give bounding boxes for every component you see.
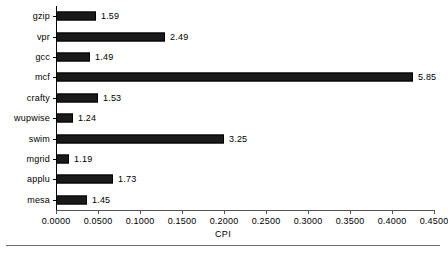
category-label: gcc <box>35 52 50 62</box>
bar <box>56 12 96 21</box>
category-label: crafty <box>27 93 50 103</box>
category-label: swim <box>29 134 50 144</box>
category-label: mcf <box>35 72 50 82</box>
category-label: gzip <box>33 11 50 21</box>
x-axis-tick-label: 0.1000 <box>126 216 155 226</box>
category-label: mesa <box>27 195 50 205</box>
bar <box>56 73 413 82</box>
x-axis-tick-label: 0.0500 <box>84 216 113 226</box>
bar <box>56 175 113 184</box>
category-label: applu <box>27 174 50 184</box>
bar <box>56 52 90 61</box>
bar-row: gzip1.59 <box>56 6 434 26</box>
bar-value-label: 1.73 <box>118 174 136 184</box>
x-axis-tick-label: 0.0000 <box>42 216 71 226</box>
category-label: mgrid <box>26 154 50 164</box>
x-axis-tick-label: 0.3500 <box>336 216 365 226</box>
x-axis-tick-label: 0.1500 <box>168 216 197 226</box>
bar <box>56 195 87 204</box>
bar-row: mesa1.45 <box>56 190 434 210</box>
bar-row: vpr2.49 <box>56 26 434 46</box>
x-axis-tick <box>56 210 57 214</box>
bar <box>56 134 224 143</box>
bar <box>56 32 165 41</box>
x-axis-tick-label: 0.2500 <box>252 216 281 226</box>
bar-value-label: 1.24 <box>78 113 96 123</box>
x-axis-tick <box>266 210 267 214</box>
x-axis-line <box>56 210 435 211</box>
x-axis-tick <box>140 210 141 214</box>
x-axis-tick <box>308 210 309 214</box>
bar-value-label: 2.49 <box>170 32 188 42</box>
x-axis-tick-label: 0.4000 <box>378 216 407 226</box>
bar-value-label: 1.53 <box>103 93 121 103</box>
x-axis-tick-label: 0.3000 <box>294 216 323 226</box>
category-label: vpr <box>37 32 50 42</box>
x-axis-tick <box>434 210 435 214</box>
category-label: wupwise <box>14 113 50 123</box>
bar-value-label: 5.85 <box>418 72 436 82</box>
bar-row: crafty1.53 <box>56 88 434 108</box>
x-axis-tick <box>182 210 183 214</box>
bar-row: applu1.73 <box>56 169 434 189</box>
bar-row: mgrid1.19 <box>56 149 434 169</box>
bar-value-label: 3.25 <box>229 134 247 144</box>
x-axis-tick <box>350 210 351 214</box>
bar-value-label: 1.49 <box>95 52 113 62</box>
bar-row: swim3.25 <box>56 128 434 148</box>
bar-value-label: 1.19 <box>74 154 92 164</box>
x-axis-tick <box>224 210 225 214</box>
x-axis-tick <box>98 210 99 214</box>
x-axis-tick-label: 0.2000 <box>210 216 239 226</box>
x-axis-tick <box>392 210 393 214</box>
plot-area: gzip1.59vpr2.49gcc1.49mcf5.85crafty1.53w… <box>56 6 434 210</box>
bar-row: wupwise1.24 <box>56 108 434 128</box>
footer-divider <box>6 245 440 246</box>
bar-row: gcc1.49 <box>56 47 434 67</box>
x-axis-title: CPI <box>0 229 446 239</box>
bar <box>56 93 98 102</box>
x-axis-tick-label: 0.4500 <box>420 216 448 226</box>
bar-value-label: 1.45 <box>92 195 110 205</box>
bar-row: mcf5.85 <box>56 67 434 87</box>
bar <box>56 114 73 123</box>
bar <box>56 154 69 163</box>
bar-value-label: 1.59 <box>101 11 119 21</box>
